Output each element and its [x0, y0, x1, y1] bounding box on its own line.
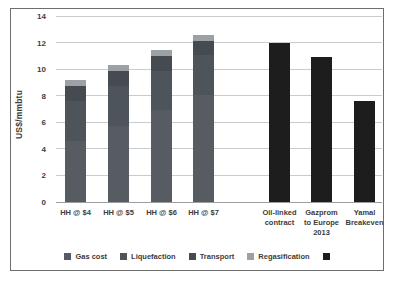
- gridline-y14: [56, 16, 382, 17]
- legend-label: Liquefaction: [131, 252, 176, 261]
- bar-4-segment-Transport: [193, 41, 214, 56]
- bar-6: [311, 57, 332, 202]
- bar-2-segment-Gas cost: [108, 126, 129, 202]
- legend-item-gas-cost: Gas cost: [64, 252, 107, 261]
- x-axis-label-4: HH @ $7: [175, 208, 233, 218]
- legend-swatch-icon: [64, 253, 71, 260]
- bar-5: [269, 43, 290, 202]
- legend-item-regasification: Regasification: [247, 252, 309, 261]
- legend-label: Gas cost: [75, 252, 107, 261]
- legend-label: Transport: [200, 252, 235, 261]
- bar-4: [193, 35, 214, 202]
- plot-area: [56, 17, 382, 203]
- y-tick-label-10: 10: [18, 65, 46, 75]
- legend-item-black-series: [323, 253, 330, 260]
- y-tick-label-6: 6: [18, 118, 46, 128]
- bar-3-segment-Gas cost: [151, 110, 172, 202]
- y-tick-label-4: 4: [18, 145, 46, 155]
- legend-swatch-icon: [323, 253, 330, 260]
- gridline-y8: [56, 95, 382, 96]
- y-tick-label-2: 2: [18, 171, 46, 181]
- chart-figure: US$/mmbtu 02468101214 HH @ $4HH @ $5HH @…: [0, 0, 394, 282]
- bar-4-segment-Gas cost: [193, 95, 214, 202]
- bar-1-segment-Liquefaction: [65, 101, 86, 141]
- y-tick-label-8: 8: [18, 92, 46, 102]
- legend-swatch-icon: [189, 253, 196, 260]
- gridline-y4: [56, 148, 382, 149]
- bar-3: [151, 50, 172, 202]
- bar-2-segment-Liquefaction: [108, 86, 129, 126]
- y-tick-label-12: 12: [18, 39, 46, 49]
- legend-swatch-icon: [247, 253, 254, 260]
- bar-1-segment-Transport: [65, 86, 86, 101]
- gridline-y10: [56, 69, 382, 70]
- bar-7-segment-black: [354, 101, 375, 202]
- gridline-y6: [56, 122, 382, 123]
- x-axis-label-7: Yamal Breakeven: [336, 208, 394, 228]
- chart-box: US$/mmbtu 02468101214 HH @ $4HH @ $5HH @…: [10, 8, 384, 271]
- legend-item-transport: Transport: [189, 252, 235, 261]
- bar-4-segment-Liquefaction: [193, 55, 214, 95]
- legend-label: Regasification: [258, 252, 309, 261]
- legend-item-liquefaction: Liquefaction: [120, 252, 176, 261]
- legend-swatch-icon: [120, 253, 127, 260]
- bar-1-segment-Gas cost: [65, 141, 86, 202]
- bar-6-segment-black: [311, 57, 332, 202]
- bar-7: [354, 101, 375, 202]
- bar-2-segment-Transport: [108, 71, 129, 86]
- bar-3-segment-Transport: [151, 56, 172, 71]
- gridline-y12: [56, 42, 382, 43]
- legend: Gas costLiquefactionTransportRegasificat…: [11, 252, 383, 261]
- y-tick-label-14: 14: [18, 12, 46, 22]
- bar-3-segment-Liquefaction: [151, 71, 172, 111]
- bar-1: [65, 80, 86, 202]
- bar-5-segment-black: [269, 43, 290, 202]
- bar-2: [108, 65, 129, 202]
- gridline-y2: [56, 175, 382, 176]
- y-tick-label-0: 0: [18, 198, 46, 208]
